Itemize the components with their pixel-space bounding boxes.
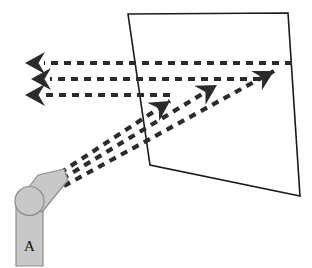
robot-arm: A: [15, 169, 68, 266]
arm-label: A: [24, 238, 35, 254]
incoming-arrowhead-3: [25, 84, 45, 106]
arm-joint: [15, 187, 44, 216]
incoming-arrowhead-1: [25, 52, 45, 74]
figure-root: Robot arm projecting and reflecting rays…: [0, 0, 312, 268]
ray-diagram-canvas: Robot arm projecting and reflecting rays…: [0, 0, 312, 268]
